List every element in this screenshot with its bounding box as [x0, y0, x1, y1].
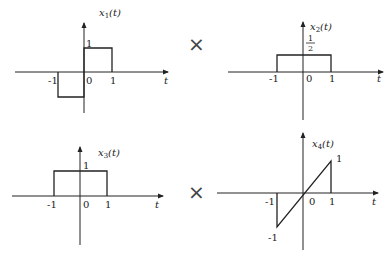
x-tick-neg1: -1	[265, 196, 275, 207]
x-tick-1: 1	[105, 199, 111, 210]
t-axis-label: t	[372, 196, 377, 207]
t-axis-label: t	[155, 199, 160, 210]
x-tick-0: 0	[86, 75, 92, 86]
t-axis-label: t	[164, 75, 169, 86]
svg-text:1: 1	[308, 34, 313, 43]
plot-x3: x3(t) 1 -1 0 1 t	[12, 147, 163, 245]
multiply-icon: ×	[188, 180, 205, 204]
plot-label: x3(t)	[98, 147, 120, 160]
x-tick-neg1: -1	[48, 75, 58, 86]
x-tick-1: 1	[110, 75, 116, 86]
t-axis-label: t	[377, 73, 382, 84]
y-tick-neg1: -1	[268, 232, 278, 243]
x-tick-0: 0	[309, 196, 315, 207]
signal-x4	[277, 161, 331, 227]
x-tick-1: 1	[329, 73, 335, 84]
plot-x2: x2(t) 1 2 -1 0 1 t	[228, 21, 383, 120]
signal-x2	[277, 55, 331, 72]
plot-label: x1(t)	[99, 7, 121, 20]
y-tick-half: 1 2	[306, 34, 315, 53]
y-tick-1: 1	[86, 38, 92, 49]
plot-x1: x1(t) 1 -1 0 1 t	[15, 7, 169, 113]
plot-label: x4(t)	[312, 138, 334, 151]
svg-text:2: 2	[308, 44, 313, 53]
x-tick-0: 0	[306, 73, 312, 84]
signals-diagram: x1(t) 1 -1 0 1 t × x2(t) 1 2 -1 0 1 t x3…	[0, 0, 391, 261]
plot-label: x2(t)	[310, 21, 332, 34]
y-tick-1: 1	[336, 153, 342, 164]
plot-x4: x4(t) 1 -1 -1 0 1 t	[217, 133, 378, 250]
x-tick-0: 0	[83, 199, 89, 210]
x-tick-neg1: -1	[269, 73, 279, 84]
y-tick-1: 1	[83, 160, 89, 171]
multiply-icon: ×	[188, 32, 205, 56]
x-tick-neg1: -1	[47, 199, 57, 210]
x-tick-1: 1	[329, 196, 335, 207]
